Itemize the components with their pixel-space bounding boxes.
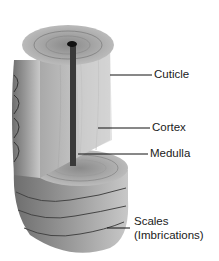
scales-label: Scales [134,215,169,228]
cuticle-label: Cuticle [154,68,189,81]
imbrications-label: (Imbrications) [134,229,204,242]
hair-shaft-illustration [0,0,219,261]
medulla-label: Medulla [150,147,190,160]
cortex-label: Cortex [152,121,186,134]
